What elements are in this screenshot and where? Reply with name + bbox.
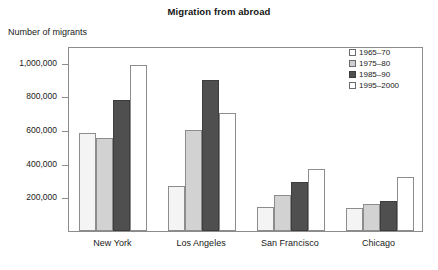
bar — [363, 204, 380, 231]
bar — [96, 138, 113, 231]
legend-label: 1985–90 — [359, 70, 390, 79]
legend-label: 1975–80 — [359, 59, 390, 68]
legend-item: 1965–70 — [349, 47, 399, 57]
bar — [397, 177, 414, 231]
x-axis-category-label: San Francisco — [246, 238, 335, 248]
x-axis-category-label: Los Angeles — [157, 238, 246, 248]
x-axis-category-label: New York — [68, 238, 157, 248]
migration-bar-chart: Migration from abroad Number of migrants… — [0, 0, 438, 270]
bar — [308, 169, 325, 231]
legend-label: 1965–70 — [359, 48, 390, 57]
bar-group — [69, 48, 158, 231]
legend-swatch-icon — [349, 71, 356, 78]
legend-swatch-icon — [349, 82, 356, 89]
bar — [291, 182, 308, 231]
bar — [257, 207, 274, 231]
y-axis-tick-label: 800,000 — [26, 91, 57, 101]
y-axis-tick-label: 1,000,000 — [19, 58, 57, 68]
bar-group — [158, 48, 247, 231]
y-axis-label: Number of migrants — [8, 27, 87, 37]
bar — [168, 186, 185, 231]
legend-swatch-icon — [349, 49, 356, 56]
x-axis-category-label: Chicago — [334, 238, 423, 248]
bar — [113, 100, 130, 231]
chart-title: Migration from abroad — [0, 6, 438, 17]
chart-legend: 1965–701975–801985–901995–2000 — [349, 47, 399, 90]
bar — [185, 130, 202, 231]
bar-group — [247, 48, 336, 231]
legend-item: 1975–80 — [349, 58, 399, 68]
legend-label: 1995–2000 — [359, 81, 399, 90]
y-axis-tick-label: 600,000 — [26, 125, 57, 135]
bar — [219, 113, 236, 231]
y-axis-tick-mark — [62, 131, 68, 132]
y-axis-tick-label: 200,000 — [26, 192, 57, 202]
bar — [274, 195, 291, 231]
bar — [202, 80, 219, 231]
bar — [346, 208, 363, 231]
legend-item: 1985–90 — [349, 69, 399, 79]
bar — [130, 65, 147, 232]
bar — [79, 133, 96, 231]
legend-item: 1995–2000 — [349, 80, 399, 90]
y-axis-tick-label: 400,000 — [26, 159, 57, 169]
y-axis-tick-mark — [62, 165, 68, 166]
bar — [380, 201, 397, 231]
y-axis-tick-mark — [62, 198, 68, 199]
y-axis-tick-mark — [62, 64, 68, 65]
y-axis-tick-mark — [62, 97, 68, 98]
legend-swatch-icon — [349, 60, 356, 67]
